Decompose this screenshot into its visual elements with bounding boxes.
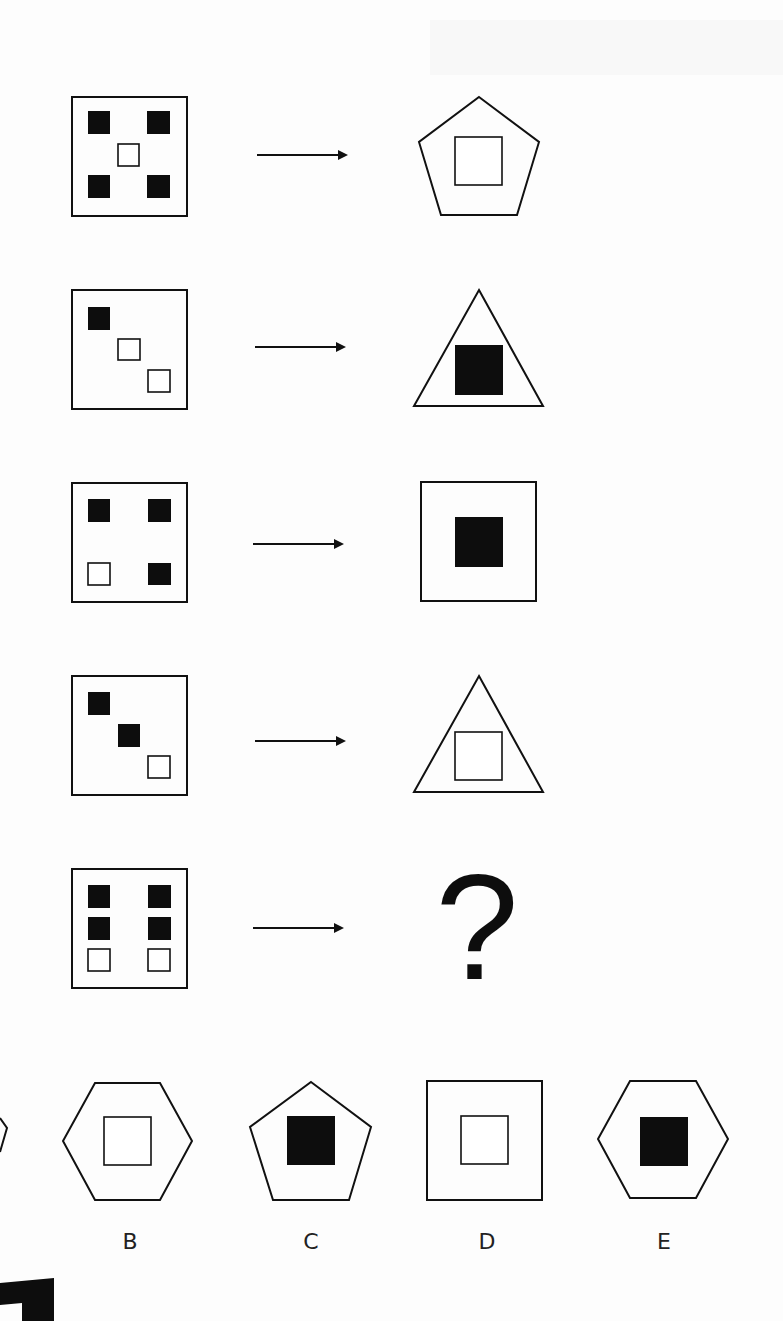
row-2-input	[72, 290, 187, 409]
inner-square-hollow	[455, 732, 502, 780]
cell-hollow	[88, 563, 110, 585]
option-b[interactable]: B	[63, 1083, 192, 1254]
corner-artifact	[0, 1278, 54, 1321]
option-b-label: B	[122, 1229, 137, 1254]
cell-solid	[88, 499, 110, 522]
cell-hollow	[88, 949, 110, 971]
row-4-input	[72, 676, 187, 795]
cell-solid	[147, 175, 170, 198]
option-e-label: E	[657, 1229, 671, 1254]
question-mark: ?	[435, 843, 518, 1011]
row-4-output	[414, 676, 543, 792]
cell-solid	[148, 563, 171, 585]
cell-solid	[148, 499, 171, 522]
option-c[interactable]: C	[250, 1082, 371, 1254]
answer-options: B C D E	[0, 1081, 728, 1254]
cell-solid	[88, 917, 110, 940]
cell-hollow	[148, 370, 170, 392]
cell-solid	[88, 175, 110, 198]
cell-solid	[88, 885, 110, 908]
cell-solid	[88, 692, 110, 715]
cell-hollow	[118, 144, 139, 166]
row-5-input	[72, 869, 187, 988]
puzzle-canvas: ? B C D E	[0, 0, 783, 1321]
row-1	[72, 97, 539, 216]
inner-square-hollow	[104, 1117, 151, 1165]
inner-square-solid	[640, 1117, 688, 1166]
option-a[interactable]	[0, 1118, 7, 1152]
cell-solid	[148, 917, 171, 940]
row-1-output	[419, 97, 539, 215]
row-2	[72, 290, 543, 409]
option-d-label: D	[479, 1229, 496, 1254]
row-5: ?	[72, 843, 519, 1011]
cell-solid	[147, 111, 170, 134]
cell-solid	[88, 307, 110, 330]
row-3-input	[72, 483, 187, 602]
cell-hollow	[118, 339, 140, 360]
inner-square-hollow	[461, 1116, 508, 1164]
option-d[interactable]: D	[427, 1081, 542, 1254]
cell-hollow	[148, 949, 170, 971]
cell-solid	[88, 111, 110, 134]
cell-solid	[118, 724, 140, 747]
scan-artifact	[430, 20, 783, 75]
cell-solid	[148, 885, 171, 908]
inner-square-solid	[455, 345, 503, 395]
cell-hollow	[148, 756, 170, 778]
row-3	[72, 482, 536, 602]
option-e[interactable]: E	[598, 1081, 728, 1254]
inner-square-solid	[455, 517, 503, 567]
option-c-label: C	[303, 1229, 318, 1254]
inner-square-solid	[287, 1116, 335, 1165]
inner-square-hollow	[455, 137, 502, 185]
option-a-shape-partial[interactable]	[0, 1118, 7, 1152]
row-4	[72, 676, 543, 795]
row-1-input	[72, 97, 187, 216]
row-3-output	[421, 482, 536, 601]
row-2-output	[414, 290, 543, 406]
